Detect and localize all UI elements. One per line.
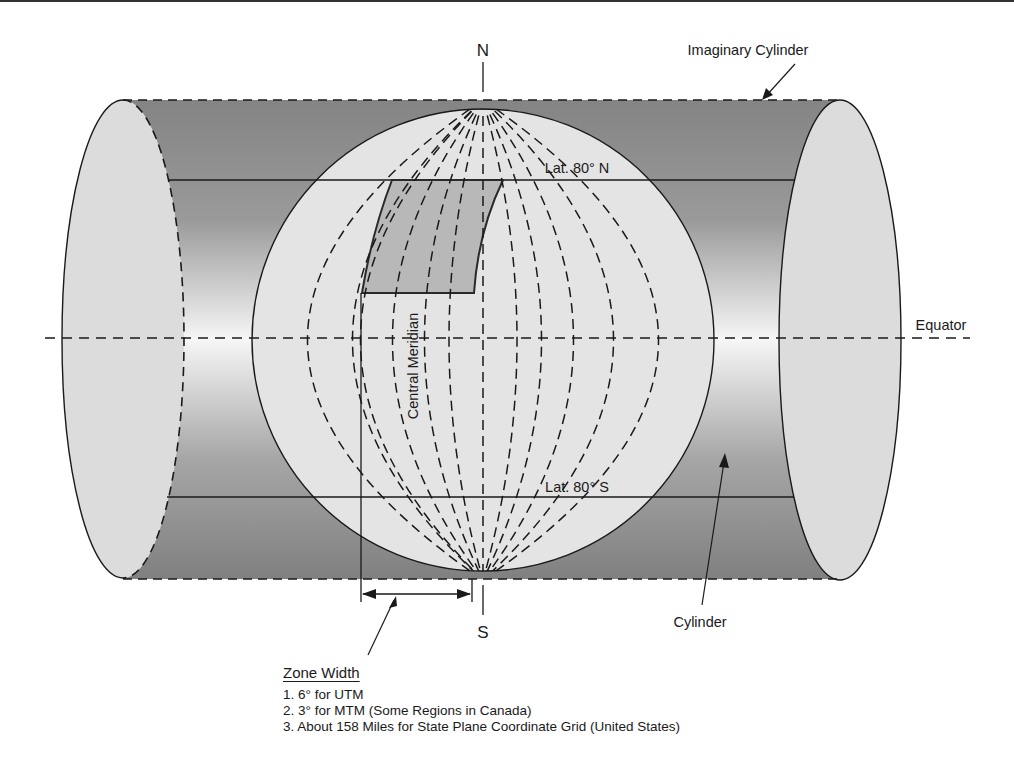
top-rule [0,0,1014,2]
cylinder-left-end [62,100,184,578]
imaginary-cylinder-leader [766,64,795,96]
zone-width-legend: Zone Width 1. 6° for UTM 2. 3° for MTM (… [283,664,680,735]
cylinder-right-end [779,100,901,580]
zone-width-item-state-plane: 3. About 158 Miles for State Plane Coord… [283,719,680,735]
central-meridian-label: Central Meridian [405,313,421,419]
zone-width-leader [368,600,394,655]
imaginary-cylinder-label: Imaginary Cylinder [688,42,809,58]
transverse-mercator-diagram: N S Imaginary Cylinder Lat. 80° N Lat. 8… [0,0,1014,758]
equator-label: Equator [916,317,967,333]
zone-width-item-mtm: 2. 3° for MTM (Some Regions in Canada) [283,703,680,719]
arrowhead-zone-leader-icon [389,596,397,608]
zone-width-title: Zone Width [283,664,680,681]
south-label: S [477,623,488,642]
lat-80s-label: Lat. 80° S [545,479,609,495]
arrowhead-right-icon [457,589,471,599]
arrowhead-left-icon [362,589,376,599]
cylinder-label: Cylinder [673,614,726,630]
north-label: N [477,41,489,60]
lat-80n-label: Lat. 80° N [545,160,610,176]
zone-width-item-utm: 1. 6° for UTM [283,687,680,703]
